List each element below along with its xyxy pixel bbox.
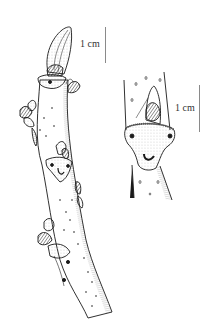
detail-scale-label: 1 cm [175,102,195,113]
detail-scale-bar [199,85,200,132]
botanical-figure: 1 cm 1 cm [0,0,215,336]
twig-scale-bar [105,27,106,63]
main-twig [20,27,112,318]
leaf-scar-detail [124,72,175,200]
twig-scale-label: 1 cm [80,38,100,49]
twig-illustration [0,0,215,336]
